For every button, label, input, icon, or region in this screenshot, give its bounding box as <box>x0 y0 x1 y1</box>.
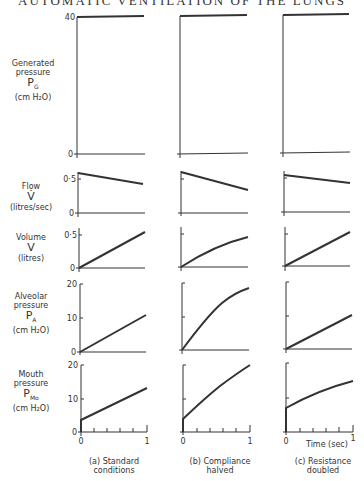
tick-vol-05: 0·5 <box>64 231 77 240</box>
plot-volume-b <box>178 227 248 271</box>
plot-mouth-c <box>283 363 353 435</box>
xtick-c-0: 0 <box>283 437 288 446</box>
x-axis-label: Time (sec) <box>306 440 348 449</box>
xtick-c-1: 1 <box>350 434 355 443</box>
tick-flow-0: 0 <box>69 209 74 218</box>
plot-flow-a <box>75 172 145 217</box>
xtick-a-1: 1 <box>144 437 149 446</box>
plot-generated-pressure-b <box>177 15 248 158</box>
xtick-b-1: 1 <box>247 437 252 446</box>
caption-line: conditions <box>78 466 150 475</box>
tick-pa-10: 10 <box>67 314 77 323</box>
caption-line: (c) Resistance <box>284 457 362 466</box>
plot-alveolar-a <box>77 284 146 355</box>
tick-pmo-0: 0 <box>72 428 77 437</box>
tick-pa-0: 0 <box>71 348 76 357</box>
caption-line: doubled <box>284 466 362 475</box>
plot-flow-b <box>178 171 248 216</box>
figure-plots: 40 0 0·5 0 0·5 0 20 10 0 20 10 0 0 1 0 1… <box>0 0 364 481</box>
tick-pa-20: 20 <box>67 280 77 289</box>
caption-line: (a) Standard <box>78 457 150 466</box>
tick-pmo-10: 10 <box>68 395 78 404</box>
caption-line: (b) Compliance <box>184 457 256 466</box>
caption-a: (a) Standard conditions <box>78 457 150 475</box>
tick-flow-05: 0·5 <box>63 175 76 184</box>
plot-mouth-a <box>78 365 147 436</box>
caption-b: (b) Compliance halved <box>184 457 256 475</box>
tick-pg-0: 0 <box>68 150 73 159</box>
plot-volume-c <box>282 227 350 271</box>
tick-pmo-20: 20 <box>68 361 78 370</box>
plot-generated-pressure-a <box>74 16 145 158</box>
plot-alveolar-b <box>179 283 249 354</box>
tick-pg-40: 40 <box>65 13 75 22</box>
xtick-a-0: 0 <box>78 437 83 446</box>
caption-line: halved <box>184 466 256 475</box>
plot-mouth-b <box>180 365 250 435</box>
plot-generated-pressure-c <box>280 14 350 157</box>
plot-flow-c <box>281 171 350 216</box>
xtick-b-0: 0 <box>180 437 185 446</box>
tick-vol-0: 0 <box>70 264 75 273</box>
caption-c: (c) Resistance doubled <box>284 457 362 475</box>
plot-volume-a <box>76 228 145 272</box>
plot-alveolar-c <box>283 282 352 353</box>
